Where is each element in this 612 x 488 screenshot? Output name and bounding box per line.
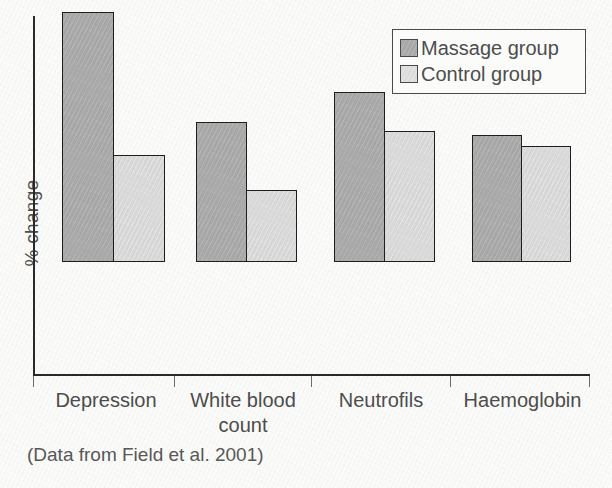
legend-item-massage-group[interactable]: Massage group — [400, 35, 577, 61]
legend-item-control-group[interactable]: Control group — [400, 61, 577, 87]
x-axis-tick — [589, 376, 590, 387]
x-axis-tick — [450, 376, 451, 387]
x-label-depression: Depression — [36, 388, 176, 413]
bar-depression-control[interactable] — [113, 155, 165, 262]
bar-white-blood-count-massage[interactable] — [196, 122, 247, 262]
legend-label-control-group: Control group — [421, 63, 542, 86]
x-axis-tick — [33, 376, 34, 387]
bar-depression-massage[interactable] — [62, 12, 114, 262]
figure-caption: (Data from Field et al. 2001) — [27, 444, 264, 466]
bar-haemoglobin-control[interactable] — [521, 146, 571, 262]
x-label-haemoglobin: Haemoglobin — [450, 388, 595, 413]
legend-label-massage-group: Massage group — [421, 37, 559, 60]
control-swatch-icon — [400, 65, 418, 83]
x-axis-tick — [174, 376, 175, 387]
bar-neutrofils-control[interactable] — [384, 131, 435, 262]
x-axis-tick — [311, 376, 312, 387]
bar-white-blood-count-control[interactable] — [246, 190, 297, 262]
bar-haemoglobin-massage[interactable] — [472, 135, 522, 262]
chart-figure: % change Depression White bloodcount Neu… — [0, 0, 612, 488]
x-label-line-2: count — [219, 414, 268, 436]
x-label-white-blood-count: White bloodcount — [178, 388, 308, 438]
x-label-line-1: White blood — [190, 389, 296, 411]
massage-swatch-icon — [400, 39, 418, 57]
x-label-neutrofils: Neutrofils — [315, 388, 447, 413]
bar-neutrofils-massage[interactable] — [334, 92, 385, 262]
legend: Massage group Control group — [392, 29, 586, 94]
